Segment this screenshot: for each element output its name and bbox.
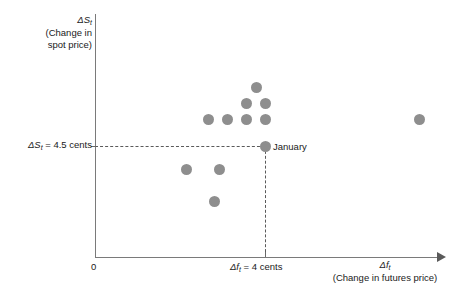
y-tick-value: = 4.5 cents	[43, 139, 92, 150]
data-point	[251, 82, 262, 93]
data-point	[222, 114, 233, 125]
data-point	[203, 114, 214, 125]
x-axis-tick	[265, 252, 266, 257]
y-axis-title-line2: (Change in	[46, 27, 92, 38]
y-axis-title-line3: spot price)	[48, 39, 92, 50]
data-point	[414, 114, 425, 125]
y-axis-title-symbol: ΔSt	[77, 14, 92, 25]
y-axis-title: ΔSt (Change in spot price)	[46, 14, 92, 51]
vertical-reference-line	[265, 146, 266, 257]
origin-label: 0	[91, 261, 96, 273]
x-axis-title-symbol: Δft	[380, 259, 391, 270]
data-point	[214, 164, 225, 175]
data-point	[241, 114, 252, 125]
scatter-plot-figure: ΔSt (Change in spot price) ΔSt = 4.5 cen…	[0, 0, 456, 294]
y-axis-tick-label: ΔSt = 4.5 cents	[28, 139, 92, 152]
data-point	[181, 164, 192, 175]
data-point	[260, 141, 271, 152]
data-point	[260, 114, 271, 125]
x-axis-title: Δft (Change in futures price)	[318, 259, 452, 284]
data-point	[209, 196, 220, 207]
january-annotation-label: January	[273, 141, 307, 153]
data-point	[241, 98, 252, 109]
y-axis-line	[95, 14, 96, 258]
data-point	[260, 98, 271, 109]
x-axis-title-line2: (Change in futures price)	[333, 272, 438, 283]
y-tick-symbol: ΔS	[28, 139, 41, 150]
x-axis-line	[95, 257, 439, 258]
x-tick-symbol: Δf	[230, 261, 239, 272]
horizontal-reference-line	[95, 146, 265, 147]
x-tick-value: = 4 cents	[241, 261, 282, 272]
x-axis-tick-label: Δft = 4 cents	[230, 261, 282, 274]
